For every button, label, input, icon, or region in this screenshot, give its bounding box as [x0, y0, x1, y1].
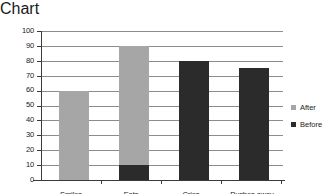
legend-item-before[interactable]: Before	[291, 118, 333, 131]
gridline-80	[41, 61, 283, 62]
bar-pushes-away-before	[239, 68, 269, 180]
y-axis-tick-label: 60	[8, 86, 34, 94]
bar-eats-after	[119, 46, 149, 165]
chart-legend: After Before	[291, 101, 333, 135]
x-axis-category-label-eats: Eats	[101, 190, 161, 194]
y-axis-tick-label: 50	[8, 101, 34, 109]
bar-chart: 100 90 80 70 60 50 40 30 20 10 0	[0, 18, 333, 194]
y-axis-tick-label: 20	[8, 146, 34, 154]
x-axis-tick	[161, 180, 162, 184]
x-axis-tick	[101, 180, 102, 184]
bar-cries-before	[179, 61, 209, 180]
x-axis-tick	[221, 180, 222, 184]
y-axis-line	[41, 31, 42, 181]
y-axis-tick-label: 100	[8, 27, 34, 35]
y-axis-tick-label: 90	[8, 42, 34, 50]
x-axis-line	[33, 180, 285, 181]
legend-item-after[interactable]: After	[291, 101, 333, 114]
gridline-90	[41, 46, 283, 47]
bar-smiles-after	[59, 91, 89, 180]
x-axis-category-label-pushes-away: Pushes away	[221, 190, 283, 194]
y-axis-tick-label: 80	[8, 57, 34, 65]
bar-eats-before	[119, 165, 149, 180]
x-axis-category-label-cries: Cries	[161, 190, 221, 194]
x-axis-tick	[281, 180, 282, 184]
legend-label-after: After	[300, 103, 316, 112]
y-axis-tick-label: 30	[8, 131, 34, 139]
legend-swatch-icon	[291, 122, 296, 127]
legend-label-before: Before	[300, 120, 322, 129]
y-axis-tick-label: 40	[8, 116, 34, 124]
y-axis-tick-label: 0	[8, 176, 34, 184]
gridline-100	[41, 31, 283, 32]
y-axis-tick-label: 10	[8, 161, 34, 169]
legend-swatch-icon	[291, 105, 296, 110]
y-axis-tick-label: 70	[8, 72, 34, 80]
x-axis-category-label-smiles: Smiles	[41, 190, 101, 194]
plot-area	[41, 31, 283, 180]
